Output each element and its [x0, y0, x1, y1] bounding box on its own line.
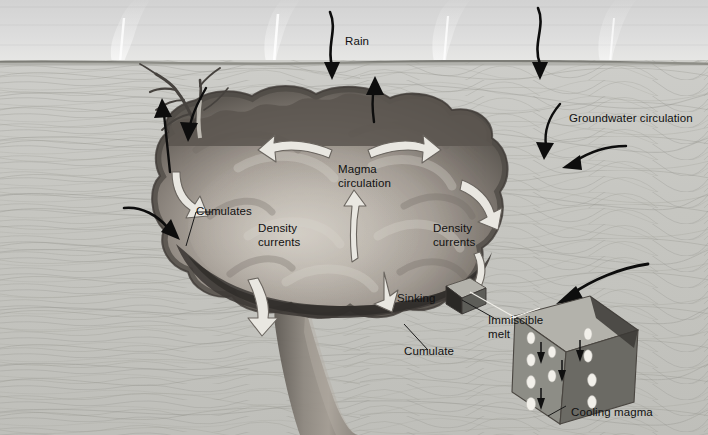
label-density-currents-right-line1: Density [433, 221, 472, 235]
label-immiscible-melt-line1: Immiscible [488, 313, 543, 327]
label-density-currents-left-line1: Density [258, 221, 297, 235]
label-groundwater-circulation: Groundwater circulation [569, 112, 693, 125]
label-cumulates: Cumulates [196, 205, 252, 218]
label-sinking: Sinking [397, 292, 435, 305]
label-cooling-magma: Cooling magma [571, 406, 653, 419]
scene-base [0, 0, 708, 435]
label-magma-circulation-line1: Magma [338, 162, 377, 176]
label-density-currents-left-line2: currents [258, 235, 300, 249]
label-density-currents-right-line2: currents [433, 235, 475, 249]
label-cumulate: Cumulate [404, 345, 454, 358]
label-magma-circulation-line2: circulation [338, 176, 391, 190]
figure-canvas: Rain Groundwater circulation Magma circu… [0, 0, 708, 435]
label-rain: Rain [345, 35, 369, 48]
label-immiscible-melt-line2: melt [488, 327, 510, 341]
